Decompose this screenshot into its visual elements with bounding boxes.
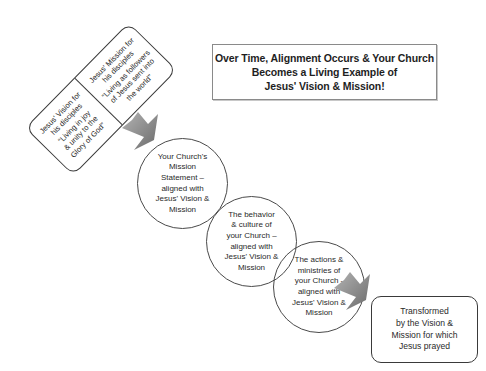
title-line-3: Jesus' Vision & Mission! xyxy=(264,79,384,93)
circle-1-line-1: Your Church's xyxy=(158,152,208,163)
title-line-2: Becomes a Living Example of xyxy=(252,65,398,79)
circle-1-line-5: Jesus' Vision & xyxy=(156,194,210,205)
final-line-4: Jesus prayed xyxy=(399,341,450,353)
title-box: Over Time, Alignment Occurs & Your Churc… xyxy=(212,44,437,100)
circle-3-line-6: Mission xyxy=(305,308,332,319)
circle-2-line-4: aligned with xyxy=(230,242,272,253)
circle-2-line-3: your Church – xyxy=(226,231,276,242)
circle-2-line-6: Mission xyxy=(238,263,265,274)
diagram-canvas: Over Time, Alignment Occurs & Your Churc… xyxy=(0,0,486,371)
circle-1-line-4: aligned with xyxy=(161,184,203,195)
circle-2-line-5: Jesus' Vision & xyxy=(225,252,279,263)
final-line-3: Mission for which xyxy=(392,330,458,342)
transformed-box: Transformed by the Vision & Mission for … xyxy=(371,296,478,363)
circle-2-line-1: The behavior xyxy=(228,210,275,221)
circle-3-line-1: The actions & xyxy=(295,255,344,266)
final-line-2: by the Vision & xyxy=(396,318,453,330)
circle-2-line-2: & culture of xyxy=(231,220,271,231)
title-line-1: Over Time, Alignment Occurs & Your Churc… xyxy=(215,51,434,65)
final-line-1: Transformed xyxy=(400,306,448,318)
arrow-down-right-icon xyxy=(330,266,374,316)
circle-1-line-2: Mission xyxy=(169,162,196,173)
circle-1-line-6: Mission xyxy=(169,205,196,216)
circle-1-line-3: Statement – xyxy=(161,173,204,184)
